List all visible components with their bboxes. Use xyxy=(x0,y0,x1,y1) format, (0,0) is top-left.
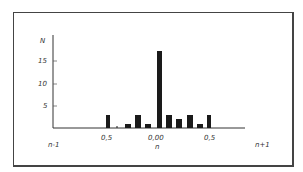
y-tick-label-5: 5 xyxy=(43,102,48,110)
y-tick-label-10: 10 xyxy=(38,80,47,88)
bar xyxy=(106,115,110,128)
bars xyxy=(106,51,211,128)
x-tick-label-left: 0,5 xyxy=(101,134,113,142)
x-tick-label-center: 0,00 xyxy=(148,134,164,142)
bar xyxy=(117,126,118,128)
x-tick-label-right: 0,5 xyxy=(204,134,216,142)
bar xyxy=(145,124,151,128)
y-tick-label-15: 15 xyxy=(38,57,47,65)
bar xyxy=(176,119,182,128)
x-left-end-label: n-1 xyxy=(48,141,59,149)
histogram-chart: N 15 10 5 0,5 0,00 0,5 n n-1 n+1 xyxy=(0,0,303,172)
x-axis-label: n xyxy=(155,143,159,151)
bar xyxy=(197,124,203,128)
bar xyxy=(166,115,172,128)
bar xyxy=(207,115,211,128)
bar xyxy=(187,115,193,128)
bar xyxy=(125,124,131,128)
bar xyxy=(157,51,162,128)
bar xyxy=(135,115,141,128)
y-axis-label: N xyxy=(40,37,46,45)
x-right-end-label: n+1 xyxy=(255,141,270,149)
